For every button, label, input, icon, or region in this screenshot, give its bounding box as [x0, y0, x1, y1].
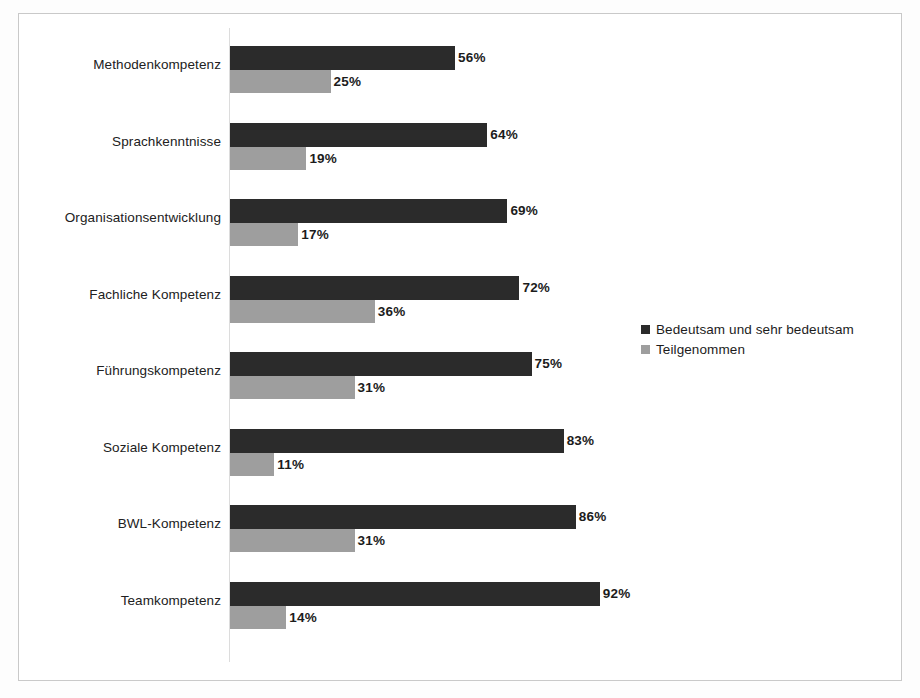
bar-bedeutsam [230, 199, 507, 223]
bar-group: Sprachkenntnisse64%19% [19, 121, 903, 173]
bar-group: Soziale Kompetenz83%11% [19, 427, 903, 479]
bar-value-teilgenommen: 17% [301, 227, 329, 242]
bar-value-bedeutsam: 72% [522, 280, 550, 295]
legend-swatch-icon [641, 325, 650, 334]
bar-teilgenommen [230, 453, 274, 476]
bar-value-teilgenommen: 19% [309, 151, 337, 166]
category-label: Teamkompetenz [19, 594, 221, 609]
chart-legend: Bedeutsam und sehr bedeutsamTeilgenommen [641, 320, 891, 360]
bar-bedeutsam [230, 276, 519, 300]
bar-group: BWL-Kompetenz86%31% [19, 503, 903, 555]
bar-value-bedeutsam: 64% [490, 127, 518, 142]
bar-group: Teamkompetenz92%14% [19, 580, 903, 632]
bar-value-bedeutsam: 69% [510, 203, 538, 218]
bar-teilgenommen [230, 300, 375, 323]
category-label: Organisationsentwicklung [19, 211, 221, 226]
bar-value-bedeutsam: 83% [567, 433, 595, 448]
bar-teilgenommen [230, 70, 331, 93]
category-label: Fachliche Kompetenz [19, 288, 221, 303]
category-label: BWL-Kompetenz [19, 517, 221, 532]
legend-swatch-icon [641, 345, 650, 354]
legend-item: Bedeutsam und sehr bedeutsam [641, 320, 891, 339]
category-label: Sprachkenntnisse [19, 135, 221, 150]
bar-value-teilgenommen: 11% [277, 457, 304, 472]
bar-value-bedeutsam: 92% [603, 586, 631, 601]
category-label: Soziale Kompetenz [19, 441, 221, 456]
bar-bedeutsam [230, 352, 532, 376]
bar-bedeutsam [230, 429, 564, 453]
bar-teilgenommen [230, 529, 355, 552]
bar-group: Methodenkompetenz56%25% [19, 44, 903, 96]
chart-frame: Methodenkompetenz56%25%Sprachkenntnisse6… [18, 13, 902, 681]
bar-value-teilgenommen: 36% [378, 304, 406, 319]
bar-teilgenommen [230, 223, 298, 246]
legend-label: Teilgenommen [656, 342, 745, 357]
bar-teilgenommen [230, 376, 355, 399]
bar-teilgenommen [230, 147, 306, 170]
bar-bedeutsam [230, 46, 455, 70]
bar-value-teilgenommen: 25% [334, 74, 362, 89]
bar-value-bedeutsam: 56% [458, 50, 486, 65]
bar-value-bedeutsam: 86% [579, 509, 607, 524]
bar-value-teilgenommen: 31% [358, 380, 386, 395]
bar-group: Fachliche Kompetenz72%36% [19, 274, 903, 326]
category-label: Führungskompetenz [19, 364, 221, 379]
bar-value-teilgenommen: 14% [289, 610, 317, 625]
legend-item: Teilgenommen [641, 340, 891, 359]
bar-bedeutsam [230, 123, 487, 147]
bar-value-teilgenommen: 31% [358, 533, 386, 548]
scanned-page: Methodenkompetenz56%25%Sprachkenntnisse6… [0, 0, 920, 698]
bar-group: Organisationsentwicklung69%17% [19, 197, 903, 249]
bar-value-bedeutsam: 75% [535, 356, 563, 371]
category-label: Methodenkompetenz [19, 58, 221, 73]
legend-label: Bedeutsam und sehr bedeutsam [656, 322, 854, 337]
bar-teilgenommen [230, 606, 286, 629]
bar-bedeutsam [230, 505, 576, 529]
bar-bedeutsam [230, 582, 600, 606]
